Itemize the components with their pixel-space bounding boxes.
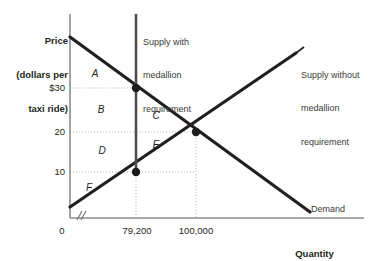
demand-label: Demand [311, 204, 345, 215]
y-axis-title-line-2: (dollars per [0, 69, 68, 80]
y-axis-title-line-1: Price [0, 35, 68, 46]
point-restricted-equilibrium [132, 84, 140, 92]
y-tick-30: $30 [18, 82, 65, 93]
y-axis-title: Price (dollars per taxi ride) [0, 13, 68, 136]
supply-with-medallion-label-line-1: Supply with [143, 37, 229, 48]
area-label-d: D [94, 145, 110, 157]
supply-demand-chart: Price (dollars per taxi ride) $30 20 10 … [0, 0, 377, 261]
y-tick-20: 20 [18, 126, 65, 137]
area-label-e: E [148, 139, 164, 151]
y-tick-10: 10 [18, 166, 65, 177]
supply-with-medallion-label-line-2: medallion [143, 70, 229, 81]
x-axis-title: Quantity (taxi rides per day) [252, 226, 377, 261]
supply-without-medallion-label-line-2: medallion [301, 103, 377, 114]
supply-without-medallion-label: Supply without medallion requirement [301, 47, 377, 171]
x-tick-zero: 0 [48, 225, 76, 236]
supply-without-medallion-label-line-1: Supply without [301, 70, 377, 81]
supply-without-medallion-label-line-3: requirement [301, 137, 377, 148]
x-axis-title-line-1: Quantity [252, 248, 377, 259]
x-tick-100000: 100,000 [165, 225, 227, 236]
area-label-a: A [87, 68, 103, 80]
area-label-c: C [148, 110, 164, 122]
y-axis-title-line-3: taxi ride) [0, 103, 68, 114]
point-supply-at-restricted-quantity [132, 168, 140, 176]
area-label-f: F [81, 182, 97, 194]
area-label-b: B [93, 104, 109, 116]
x-tick-79200: 79,200 [108, 225, 166, 236]
